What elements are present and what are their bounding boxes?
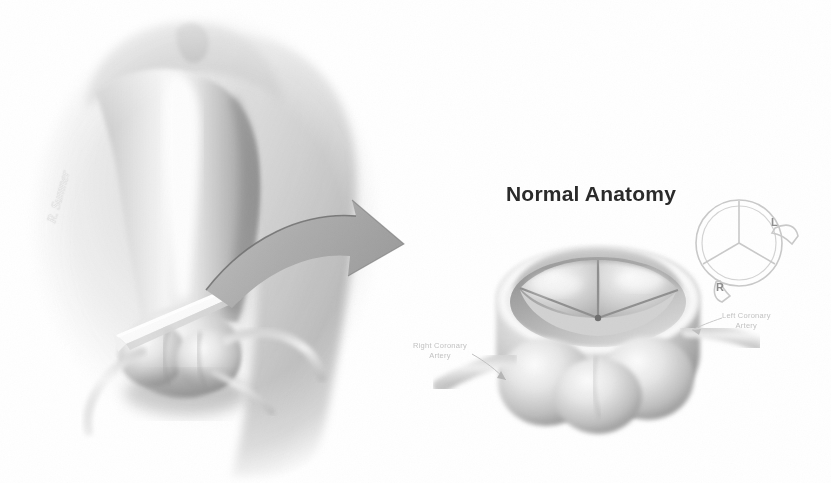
callout-right-coronary-line2: Artery bbox=[413, 351, 467, 361]
callout-left-coronary-line2: Artery bbox=[722, 321, 771, 331]
key-label-right-coronary: R bbox=[716, 281, 724, 293]
callout-left-coronary-artery: Left Coronary Artery bbox=[722, 311, 771, 331]
key-commissure-lower-right bbox=[739, 243, 775, 264]
callout-right-coronary-artery: Right Coronary Artery bbox=[413, 341, 467, 361]
sinus-bulge-center bbox=[554, 358, 642, 434]
right-panel-valve bbox=[440, 246, 764, 434]
key-label-left-coronary: L bbox=[771, 216, 778, 228]
central-coaptation-point bbox=[595, 315, 601, 321]
page-title: Normal Anatomy bbox=[506, 182, 676, 206]
callout-right-coronary-line1: Right Coronary bbox=[413, 341, 467, 351]
valve-orientation-key bbox=[696, 200, 798, 302]
key-commissure-lower-left bbox=[703, 243, 739, 264]
callout-left-coronary-line1: Left Coronary bbox=[722, 311, 771, 321]
cusp-specular-left bbox=[530, 272, 582, 296]
medical-illustration-figure: Normal Anatomy L R Right Coronary Artery… bbox=[0, 0, 831, 483]
illustration-canvas bbox=[0, 0, 831, 483]
